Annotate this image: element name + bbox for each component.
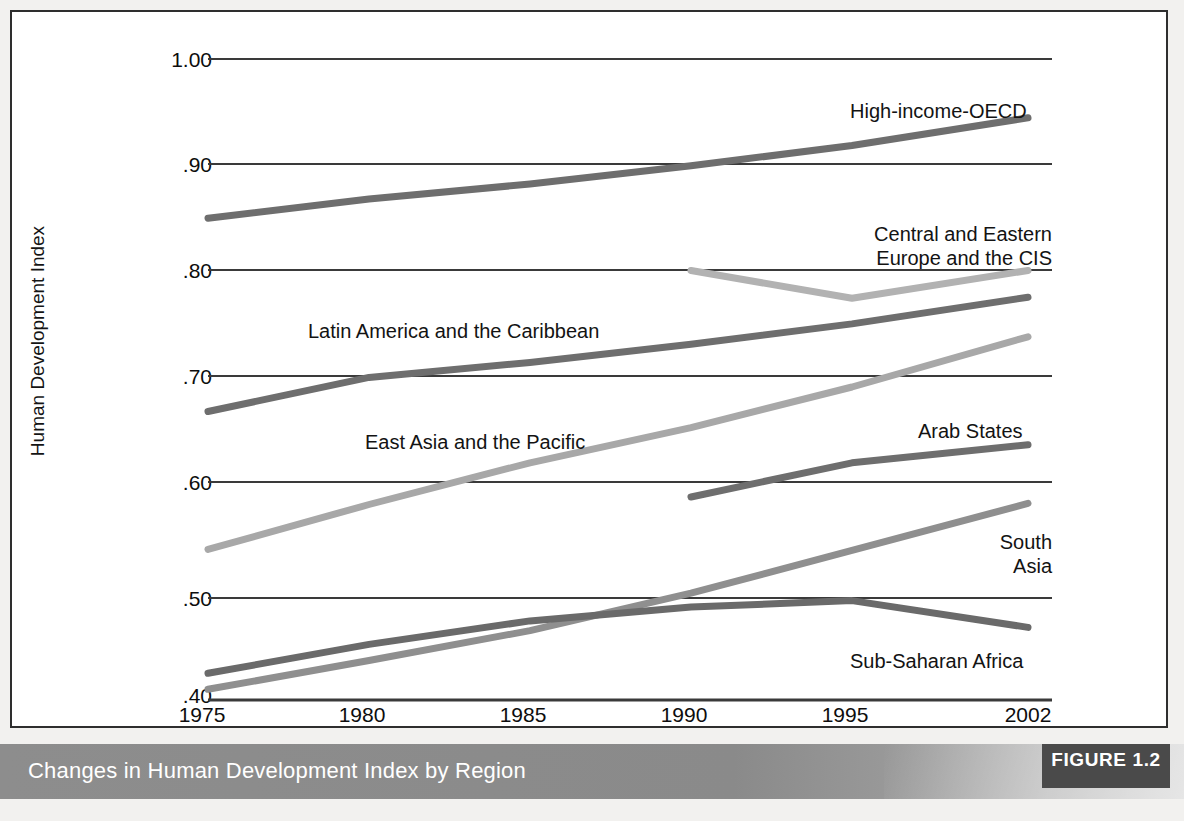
series-label-cee-line1: Central and Eastern [762, 222, 1052, 246]
series-label-latin-america-caribbean: Latin America and the Caribbean [308, 319, 599, 343]
series-label-sub-saharan-africa: Sub-Saharan Africa [850, 649, 1023, 673]
series-lines [208, 118, 1028, 690]
series-label-central-eastern-europe-cis: Central and Eastern Europe and the CIS [762, 222, 1052, 270]
chart-panel: 1.00 .90 .80 .70 .60 .50 .40 1975 1980 1… [10, 10, 1168, 728]
series-label-south-asia: South Asia [862, 530, 1052, 578]
series-label-arab-states: Arab States [918, 419, 1023, 443]
figure-container: 1.00 .90 .80 .70 .60 .50 .40 1975 1980 1… [0, 0, 1184, 821]
figure-number-badge: FIGURE 1.2 [1042, 744, 1170, 788]
figure-number-label: FIGURE 1.2 [1051, 749, 1160, 771]
series-label-high-income-oecd: High-income-OECD [850, 99, 1027, 123]
series-label-south-asia-line2: Asia [862, 554, 1052, 578]
series-label-east-asia-pacific: East Asia and the Pacific [365, 430, 585, 454]
figure-caption-bar: Changes in Human Development Index by Re… [0, 744, 1184, 799]
series-line-high-income-oecd [208, 118, 1028, 218]
series-label-cee-line2: Europe and the CIS [762, 246, 1052, 270]
series-line-latin-america-and-the-caribbean [208, 297, 1028, 411]
figure-caption-text: Changes in Human Development Index by Re… [28, 758, 526, 784]
series-line-east-asia-and-the-pacific [208, 337, 1028, 550]
series-label-south-asia-line1: South [862, 530, 1052, 554]
series-line-central-and-eastern-europe-and-the-cis [691, 271, 1028, 299]
series-line-arab-states [691, 445, 1028, 497]
